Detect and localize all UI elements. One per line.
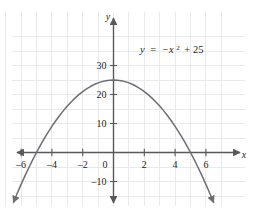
y-axis-name-label: y [105,11,111,22]
y-tick-label-20: 20 [97,89,107,100]
graph-canvas: –6 –4 –2 0 2 4 6 30 20 10 –10 x y y = −x… [0,0,257,216]
y-tick-label-10: 10 [97,118,107,129]
equation-lhs: y [139,44,145,55]
y-tick-label-30: 30 [97,60,107,71]
x-tick-label-zero: 0 [103,159,108,170]
equation-equals: = [150,44,156,55]
equation-exponent: 2 [176,44,180,52]
y-tick-label-neg10: –10 [91,176,107,187]
x-tick-label-neg4: –4 [46,159,57,170]
equation-constant: + 25 [184,44,203,55]
x-tick-label-6: 6 [203,159,208,170]
x-tick-label-neg6: –6 [15,159,26,170]
parabola-graph-figure: –6 –4 –2 0 2 4 6 30 20 10 –10 x y y = −x… [0,0,257,216]
x-axis-name-label: x [241,149,247,160]
x-tick-label-4: 4 [173,159,178,170]
x-tick-label-2: 2 [142,159,147,170]
equation-annotation: y = −x 2 + 25 [139,41,203,56]
x-tick-label-neg2: –2 [77,159,88,170]
grid-lines [6,12,245,206]
equation-neg-x: −x [162,44,174,55]
